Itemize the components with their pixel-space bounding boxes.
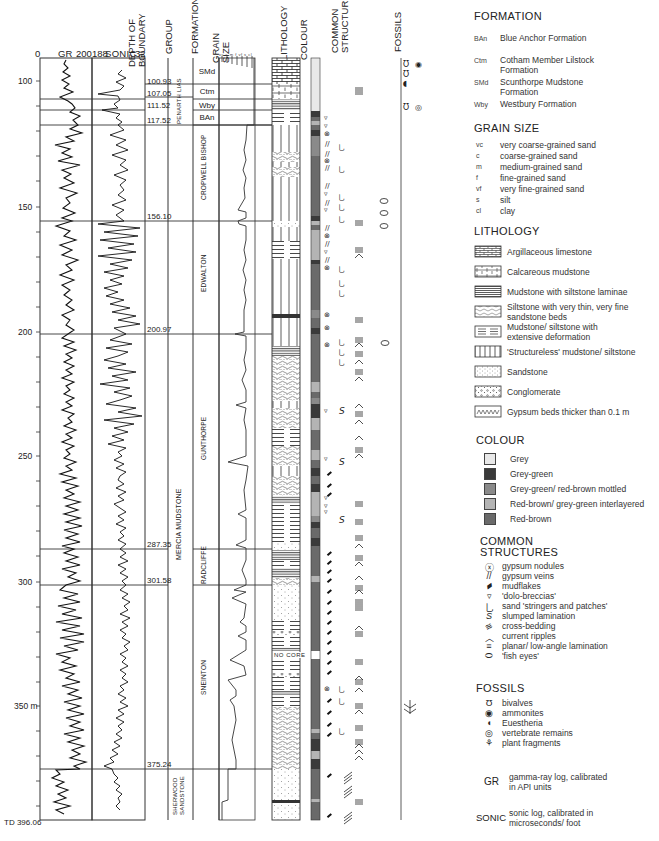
legend-lithology-item: Argillaceous limestone [507,247,657,257]
svg-text:⺃: ⺃ [338,194,345,202]
svg-text:Ʊ: Ʊ [403,60,409,69]
svg-text:Ʊ: Ʊ [403,70,409,79]
svg-text:⺃: ⺃ [338,280,345,288]
legend-structure-item: mudflakes [502,581,659,591]
legend-lithology-item: Mudstone with siltstone laminae [507,287,657,297]
legend-abbr: Wby [474,101,488,108]
ammonites-icon: ◉ [482,708,496,718]
svg-text:◖: ◖ [403,79,407,88]
euestheria-icon: ◖ [482,718,496,728]
legend-abbr: f [476,174,478,181]
legend-abbr: Ctm [474,57,487,64]
legend-colour-item: Grey-green [510,469,650,479]
svg-text:⊗: ⊗ [324,324,330,332]
svg-text://: // [325,164,330,172]
legend-lithology-item: Calcareous mudstone [507,267,657,277]
legend-structure-item: cross-bedding [502,621,659,631]
depth-label-100: 100 [18,76,32,86]
svg-text:⊗: ⊗ [324,685,330,693]
legend-gr-text: gamma-ray log, calibrated in API units [509,772,609,792]
svg-text:⺃: ⺃ [338,266,345,274]
legend-colour-title: COLOUR [476,434,525,446]
svg-text:⺃: ⺃ [338,698,345,706]
legend-abbr: vc [476,141,483,148]
legend-structure-item: 'fish eyes' [502,651,659,661]
legend-formation-item: Cotham Member Lilstock Formation [500,55,595,75]
legend-structures-title-2: STRUCTURES [480,547,558,558]
legend-structure-item: slumped lamination [502,611,659,621]
depth-label-300: 300 [18,577,32,587]
legend-formation-title: FORMATION [474,10,542,22]
svg-text:⊗: ⊗ [324,130,330,138]
boundary-depth: 375.24 [147,760,171,769]
svg-text:⊗: ⊗ [324,232,330,240]
legend-grain-item: clay [500,206,659,216]
lithology-swatches [474,244,504,484]
dolo-breccias-icon: ▿ [482,591,496,601]
plant-fragments-icon: ⚘ [482,738,496,748]
legend-structure-item: planar/ low-angle lamination [502,641,659,651]
svg-text:⺃: ⺃ [338,204,345,212]
legend-lithology-item: Sandstone [507,367,657,377]
svg-text:⺃: ⺃ [338,290,345,298]
legend-formation-item: Westbury Formation [500,99,640,109]
svg-text:S: S [339,457,345,467]
svg-text:◎: ◎ [415,103,422,112]
legend-lithology-item: 'Structureless' mudstone/ siltstone [507,347,657,357]
legend-fossil-item: plant fragments [502,738,652,748]
svg-text:⺃: ⺃ [338,349,345,357]
svg-text:▿: ▿ [324,248,328,256]
svg-text:S: S [339,515,345,525]
group-mercia-mudstone: MERCIA MUDSTONE [175,488,182,560]
svg-text:Ʊ: Ʊ [403,103,409,112]
legend-fossil-item: Euestheria [502,718,652,728]
legend-abbr: SMd [474,79,488,86]
formation-sneinton: SNEINTON [200,660,207,695]
depth-label-350: 350 m [14,701,38,711]
legend-grain-item: silt [500,195,659,205]
colour-swatch-red-brown [484,513,496,525]
boundary-depth: 287.35 [147,540,171,549]
svg-text:▿: ▿ [324,122,328,130]
boundary-depth: 100.93 [147,77,171,86]
formation-radcliffe: RADCLIFFE [200,546,207,584]
svg-text:S: S [339,406,345,416]
boundary-depth: 200.97 [147,325,171,334]
legend-abbr: c [476,152,480,159]
no-core-label: NO CORE [274,652,306,658]
formation-edwalton: EDWALTON [200,254,207,292]
legend-abbr: cl [476,207,481,214]
legend-grain-size-title: GRAIN SIZE [474,122,539,134]
svg-text://: // [325,224,330,232]
legend-lithology-item: Siltstone with very thin, very fine sand… [507,302,632,322]
svg-text:⺃: ⺃ [338,144,345,152]
group-sherwood-sandstone: SHERWOOD SANDSTONE [172,775,186,815]
legend-abbr: vf [476,185,481,192]
fish-eyes-icon: ⬭ [482,651,496,662]
svg-text://: // [325,256,330,264]
colour-swatch-mottled [484,483,496,495]
legend-fossil-item: vertebrate remains [502,728,652,738]
legend-grain-item: coarse-grained sand [500,151,659,161]
depth-label-200: 200 [18,327,32,337]
legend-colour-item: Red-brown/ grey-green interlayered [510,499,659,509]
depth-label-150: 150 [18,202,32,212]
planar-lamination-icon: ≡ [482,641,496,651]
svg-text:⺃: ⺃ [338,339,345,347]
colour-swatch-grey-green [484,468,496,480]
formation-cropwell-bishop: CROPWELL BISHOP [200,134,207,200]
svg-text:⊗: ⊗ [324,311,330,319]
svg-text:▿: ▿ [324,455,328,463]
legend-colour-item: Grey-green/ red-brown mottled [510,484,655,494]
svg-text:⊗: ⊗ [324,264,330,272]
legend-lithology-item: Mudstone/ siltstone with extensive defor… [507,322,617,342]
formation-smd: SMd [196,67,218,76]
legend-sonic-text: sonic log, calibrated in microseconds/ f… [509,808,609,828]
legend-fossil-item: bivalves [502,698,652,708]
legend-grain-item: fine-grained sand [500,173,659,183]
borehole-log-graphic: ▿▿ ⊗// //⊗ //// ▿// ▿// ⊗// ▿// ⊗⊗ ⊗⊗ ▿▿… [0,0,470,841]
svg-text://: // [325,140,330,148]
legend-formation-item: Blue Anchor Formation [500,33,610,43]
boundary-depth: 107.05 [147,89,171,98]
legend-sonic-abbr: SONIC [476,812,506,823]
